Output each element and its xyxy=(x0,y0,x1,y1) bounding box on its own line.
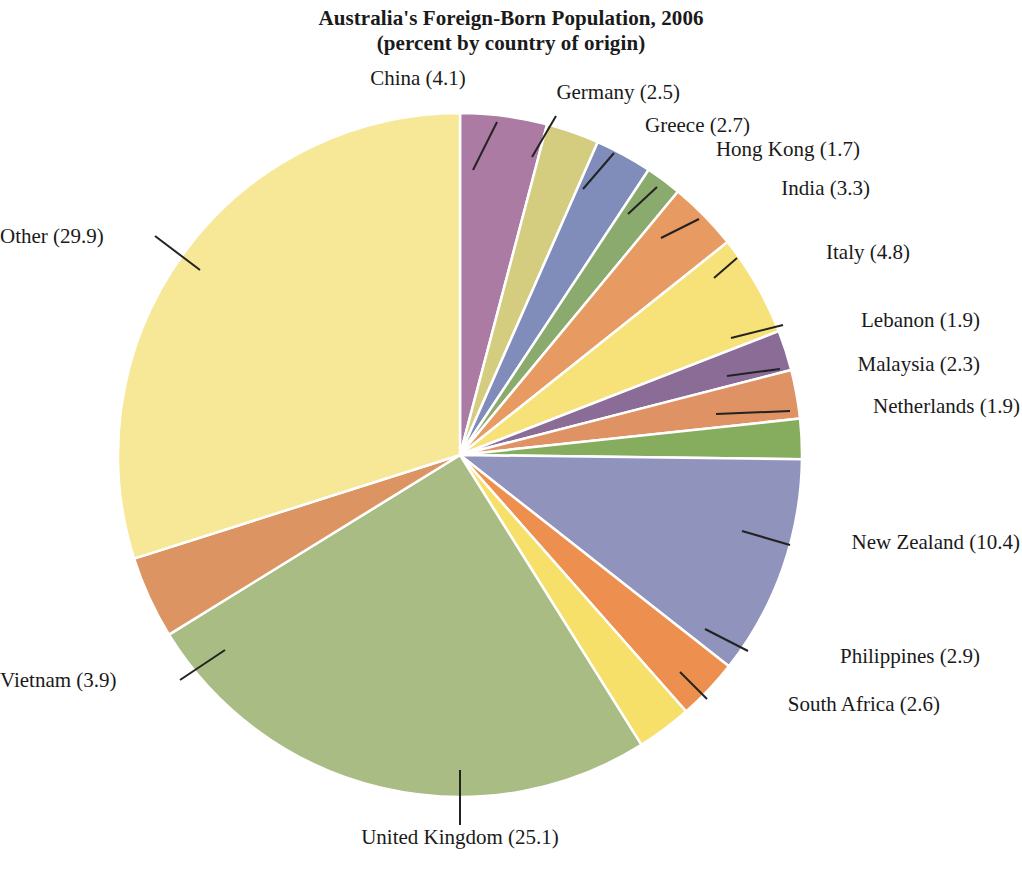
slice-label-germany: Germany (2.5) xyxy=(380,80,680,104)
slice-label-italy: Italy (4.8) xyxy=(610,240,910,264)
slice-label-netherlands: Netherlands (1.9) xyxy=(640,394,1020,418)
pie-chart-figure: Australia's Foreign-Born Population, 200… xyxy=(0,0,1022,879)
slice-label-hong-kong: Hong Kong (1.7) xyxy=(520,137,860,161)
slice-label-malaysia: Malaysia (2.3) xyxy=(640,352,980,376)
slice-label-other: Other (29.9) xyxy=(0,224,152,248)
slice-label-greece: Greece (2.7) xyxy=(450,113,750,137)
slice-label-new-zealand: New Zealand (10.4) xyxy=(640,530,1020,554)
slice-label-india: India (3.3) xyxy=(570,176,870,200)
slice-label-lebanon: Lebanon (1.9) xyxy=(640,308,980,332)
slice-label-philippines: Philippines (2.9) xyxy=(600,644,980,668)
slice-label-vietnam: Vietnam (3.9) xyxy=(0,668,176,692)
slice-label-united-kingdom: United Kingdom (25.1) xyxy=(260,825,660,849)
slice-label-south-africa: South Africa (2.6) xyxy=(560,692,940,716)
